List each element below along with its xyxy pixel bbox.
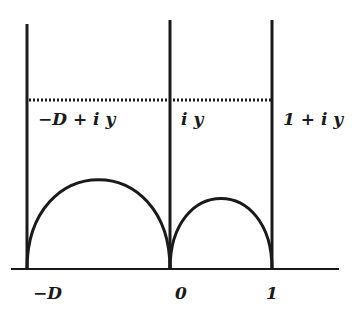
diagram-canvas [0,0,362,318]
tick-label-neg-d: −D [33,285,62,302]
tick-label-one: 1 [266,285,278,302]
tick-label-zero: 0 [175,285,187,302]
label-iy: i y [181,111,203,128]
semicircle-neg-d-to-zero [27,180,170,269]
semicircle-zero-to-one [170,199,272,270]
label-neg-d-plus-iy: −D + i y [38,111,115,128]
label-one-plus-iy: 1 + i y [283,111,343,128]
